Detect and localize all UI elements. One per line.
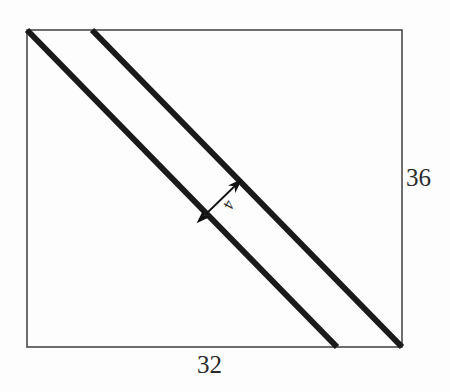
geometry-diagram: 36 32 4 [0,0,450,392]
dimension-label-width: 32 [197,352,222,377]
diagonal-lower-right [92,30,402,347]
diagonal-upper-left [27,30,337,347]
dimension-label-height: 36 [406,165,431,190]
diagram-canvas [0,0,450,392]
outer-rectangle [27,30,402,347]
